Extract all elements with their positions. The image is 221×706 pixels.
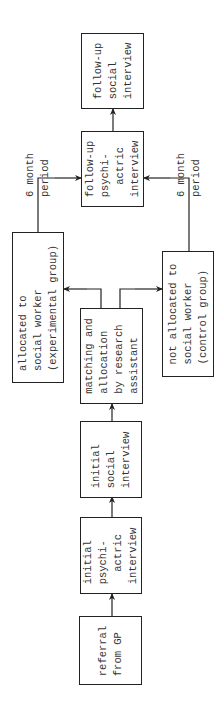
- followup-psychiatric-interview-box: follow-up psychi- actric interview: [81, 131, 144, 207]
- six-month-period-note-top: 6 month period: [23, 153, 53, 197]
- experimental-group-box: allocated to social worker (experimental…: [12, 232, 64, 383]
- followup-social-interview-box: follow-up social interview: [81, 33, 144, 109]
- initial-psychiatric-interview-label: initial psychi- actric interview: [81, 527, 141, 584]
- followup-social-interview-label: follow-up social interview: [90, 43, 135, 100]
- control-group-label: not allocated to social worker (control …: [166, 264, 211, 365]
- matching-allocation-label: matching and allocation by research assi…: [82, 318, 142, 394]
- referral-from-gp-box: referral from GP: [79, 616, 142, 685]
- initial-psychiatric-interview-box: initial psychi- actric interview: [80, 517, 142, 594]
- matching-allocation-box: matching and allocation by research assi…: [80, 308, 143, 404]
- referral-from-gp-label: referral from GP: [96, 625, 126, 675]
- initial-social-interview-label: initial social interview: [89, 431, 134, 488]
- control-group-box: not allocated to social worker (control …: [162, 251, 214, 377]
- experimental-group-label: allocated to social worker (experimental…: [16, 244, 61, 370]
- six-month-period-note-bottom: 6 month period: [174, 153, 204, 197]
- followup-psychiatric-interview-label: follow-up psychi- actric interview: [83, 141, 143, 198]
- initial-social-interview-box: initial social interview: [80, 421, 142, 498]
